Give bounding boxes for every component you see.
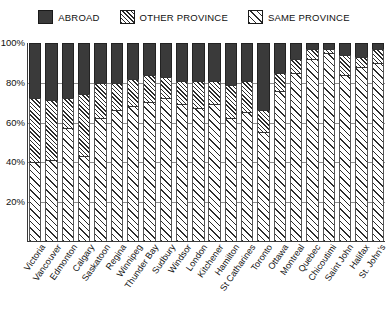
bar-segment-abroad — [176, 43, 188, 81]
bar-segment-same-province — [160, 98, 172, 241]
bar-segment-same-province — [208, 104, 220, 241]
bar-segment-other-province — [290, 59, 302, 73]
bar-segment-other-province — [192, 81, 204, 109]
bar-segment-other-province — [372, 49, 384, 63]
bar-london[interactable] — [192, 43, 204, 241]
bar-group — [28, 43, 385, 241]
x-axis: VictoriaVancouverEdmontonCalgarySaskatoo… — [27, 243, 385, 316]
bar-segment-abroad — [257, 43, 269, 110]
legend-item-other-province: OTHER PROVINCE — [120, 10, 228, 24]
light-hatch-swatch-icon — [248, 10, 263, 24]
bar-edmonton[interactable] — [62, 43, 74, 241]
bar-segment-same-province — [45, 160, 57, 241]
bar-segment-same-province — [323, 53, 335, 241]
bar-kitchener[interactable] — [208, 43, 220, 241]
bar-segment-same-province — [355, 67, 367, 241]
bar-sudbury[interactable] — [160, 43, 172, 241]
y-axis-tick-label: 100% — [1, 38, 25, 48]
bar-hamilton[interactable] — [225, 43, 237, 241]
bar-winnipeg[interactable] — [127, 43, 139, 241]
bar-thunder-bay[interactable] — [143, 43, 155, 241]
bar-vancouver[interactable] — [45, 43, 57, 241]
bar-segment-other-province — [176, 81, 188, 105]
y-axis-tick-label: 40% — [6, 157, 25, 167]
bar-chicoutimi[interactable] — [323, 43, 335, 241]
bar-windsor[interactable] — [176, 43, 188, 241]
bar-segment-abroad — [94, 43, 106, 83]
bar-segment-other-province — [257, 110, 269, 132]
bar-segment-other-province — [339, 55, 351, 75]
plot-area — [27, 43, 385, 242]
bar-segment-other-province — [208, 81, 220, 105]
bar-segment-other-province — [45, 100, 57, 159]
bar-segment-same-province — [62, 128, 74, 241]
bar-st-john-s[interactable] — [372, 43, 384, 241]
bar-halifax[interactable] — [355, 43, 367, 241]
y-axis-tick-label: 80% — [6, 78, 25, 88]
bar-segment-abroad — [29, 43, 41, 98]
bar-segment-other-province — [78, 94, 90, 155]
bar-segment-abroad — [192, 43, 204, 81]
bar-calgary[interactable] — [78, 43, 90, 241]
bar-segment-same-province — [192, 108, 204, 241]
bar-segment-abroad — [160, 43, 172, 77]
bar-segment-other-province — [143, 75, 155, 103]
bar-st-catharines[interactable] — [241, 43, 253, 241]
solid-dark-swatch-icon — [38, 10, 53, 24]
legend-item-same-province: SAME PROVINCE — [248, 10, 350, 24]
bar-segment-other-province — [274, 73, 286, 91]
bar-montreal[interactable] — [290, 43, 302, 241]
bar-regina[interactable] — [111, 43, 123, 241]
bar-segment-abroad — [225, 43, 237, 85]
bar-segment-same-province — [306, 59, 318, 241]
bar-segment-same-province — [94, 118, 106, 241]
bar-segment-same-province — [241, 112, 253, 241]
bar-segment-abroad — [274, 43, 286, 73]
bar-segment-same-province — [257, 132, 269, 241]
bar-segment-other-province — [127, 79, 139, 107]
bar-segment-abroad — [127, 43, 139, 79]
bar-segment-abroad — [143, 43, 155, 75]
bar-segment-same-province — [372, 63, 384, 241]
bar-segment-same-province — [29, 162, 41, 241]
bar-segment-same-province — [111, 110, 123, 241]
bar-segment-abroad — [111, 43, 123, 83]
bar-segment-other-province — [62, 98, 74, 128]
bar-segment-other-province — [355, 57, 367, 67]
bar-ottawa[interactable] — [274, 43, 286, 241]
legend-label-same-province: SAME PROVINCE — [268, 12, 350, 23]
bar-segment-abroad — [62, 43, 74, 98]
bar-segment-other-province — [29, 98, 41, 161]
bar-segment-other-province — [225, 85, 237, 119]
bar-quebec[interactable] — [306, 43, 318, 241]
bar-segment-abroad — [355, 43, 367, 57]
bar-segment-same-province — [176, 104, 188, 241]
y-axis-tick-label: 60% — [6, 118, 25, 128]
legend-label-other-province: OTHER PROVINCE — [140, 12, 228, 23]
bar-segment-same-province — [143, 102, 155, 241]
bar-segment-other-province — [94, 83, 106, 119]
bar-segment-abroad — [208, 43, 220, 81]
bar-saint-john[interactable] — [339, 43, 351, 241]
bar-segment-abroad — [339, 43, 351, 55]
bar-segment-other-province — [111, 83, 123, 111]
y-axis-tick-label: 20% — [6, 197, 25, 207]
bar-segment-abroad — [45, 43, 57, 100]
bar-toronto[interactable] — [257, 43, 269, 241]
bar-segment-abroad — [290, 43, 302, 59]
bar-segment-other-province — [241, 81, 253, 113]
bar-segment-same-province — [225, 118, 237, 241]
bar-segment-other-province — [160, 77, 172, 99]
dense-hatch-swatch-icon — [120, 10, 135, 24]
bar-segment-same-province — [127, 106, 139, 241]
bar-victoria[interactable] — [29, 43, 41, 241]
bar-segment-abroad — [241, 43, 253, 81]
bar-segment-same-province — [290, 73, 302, 241]
bar-segment-other-province — [306, 49, 318, 59]
bar-segment-same-province — [78, 156, 90, 241]
legend-label-abroad: ABROAD — [58, 12, 99, 23]
bar-segment-abroad — [78, 43, 90, 94]
bar-saskatoon[interactable] — [94, 43, 106, 241]
y-axis: 100%80%60%40%20% — [0, 43, 27, 243]
bar-segment-same-province — [274, 91, 286, 241]
